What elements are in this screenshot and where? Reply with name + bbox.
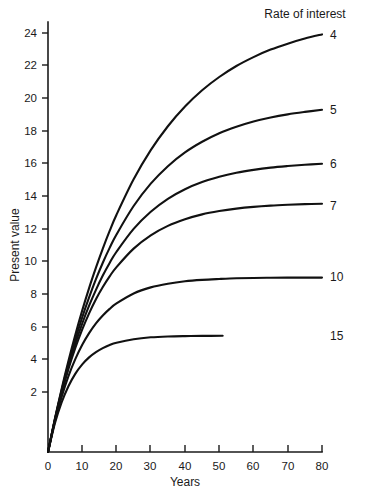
- series-label-7: 7: [330, 199, 337, 213]
- chart-figure: 24 22 20 18 16 14 12 10 8 6 4 2 0: [0, 0, 372, 494]
- y-axis-title: Present value: [8, 208, 22, 282]
- y-tick-label-6: 6: [31, 321, 37, 333]
- curve-rate-7: [48, 204, 322, 452]
- x-tick-label-80: 80: [316, 460, 329, 472]
- x-axis-ticks: [82, 445, 322, 452]
- x-tick-label-40: 40: [179, 460, 192, 472]
- x-axis-tick-labels: 0 10 20 30 40 50 60 70 80: [45, 460, 329, 472]
- x-tick-label-30: 30: [144, 460, 157, 472]
- series-end-labels: 45671015: [330, 28, 344, 344]
- x-tick-label-70: 70: [282, 460, 295, 472]
- y-axis-tick-labels: 24 22 20 18 16 14 12 10 8 6 4 2: [24, 27, 37, 398]
- series-label-6: 6: [330, 157, 337, 171]
- y-tick-label-20: 20: [24, 92, 37, 104]
- y-tick-label-24: 24: [24, 27, 37, 39]
- x-axis-title: Years: [170, 475, 200, 489]
- series-label-10: 10: [330, 270, 344, 284]
- y-tick-label-14: 14: [24, 190, 37, 202]
- curve-rate-4: [48, 34, 322, 452]
- y-tick-label-12: 12: [24, 223, 37, 235]
- y-axis-ticks: [42, 33, 48, 392]
- y-tick-label-2: 2: [31, 386, 37, 398]
- series-label-5: 5: [330, 103, 337, 117]
- y-tick-label-22: 22: [24, 59, 37, 71]
- y-tick-label-10: 10: [24, 255, 37, 267]
- x-tick-label-0: 0: [45, 460, 51, 472]
- data-curves: [48, 34, 322, 452]
- present-value-line-chart: 24 22 20 18 16 14 12 10 8 6 4 2 0: [0, 0, 372, 494]
- y-tick-label-4: 4: [31, 353, 38, 365]
- x-tick-label-10: 10: [76, 460, 89, 472]
- y-tick-label-8: 8: [31, 288, 37, 300]
- legend-heading: Rate of interest: [264, 7, 346, 21]
- x-tick-label-50: 50: [213, 460, 226, 472]
- x-tick-label-60: 60: [247, 460, 260, 472]
- series-label-15: 15: [330, 329, 344, 343]
- series-label-4: 4: [330, 28, 337, 42]
- curve-rate-6: [48, 164, 322, 452]
- axes: [48, 22, 322, 452]
- x-tick-label-20: 20: [110, 460, 123, 472]
- y-tick-label-18: 18: [24, 125, 37, 137]
- y-tick-label-16: 16: [24, 157, 37, 169]
